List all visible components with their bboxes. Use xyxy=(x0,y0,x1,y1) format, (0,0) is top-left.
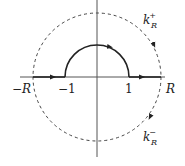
lower-arc-arrow-icon xyxy=(150,113,152,117)
label-neg-one: −1 xyxy=(58,82,76,96)
label-k-R-minus: k−R xyxy=(143,128,157,147)
label-R: R xyxy=(165,82,175,96)
label-one: 1 xyxy=(125,82,133,96)
contour-diagram: −R −1 1 R k+R k−R xyxy=(0,0,185,166)
label-neg-R: −R xyxy=(12,82,31,96)
label-k-R-plus: k+R xyxy=(143,11,157,30)
